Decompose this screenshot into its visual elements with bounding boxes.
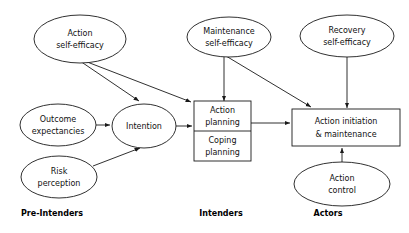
action-planning-label-line1: Action (210, 106, 235, 115)
outcome-expectancies-label-line2: expectancies (32, 127, 85, 136)
node-maintenance-self-efficacy[interactable]: Maintenance self-efficacy (187, 17, 271, 57)
coping-planning-label-line2: planning (205, 148, 240, 157)
node-planning-box[interactable]: Action planning Coping planning (194, 101, 251, 161)
action-self-efficacy-ellipse (34, 15, 126, 63)
recovery-self-efficacy-ellipse (300, 15, 394, 57)
node-risk-perception[interactable]: Risk perception (21, 156, 97, 198)
node-action-initiation[interactable]: Action initiation & maintenance (292, 109, 400, 146)
maintenance-self-efficacy-label-line2: self-efficacy (205, 39, 253, 48)
hapa-diagram: Action self-efficacy Maintenance self-ef… (0, 0, 409, 233)
stage-label-intenders: Intenders (199, 209, 243, 218)
action-planning-label-line2: planning (205, 118, 240, 127)
recovery-self-efficacy-label-line1: Recovery (328, 26, 365, 35)
risk-perception-label-line2: perception (38, 179, 81, 188)
outcome-expectancies-label-line1: Outcome (40, 115, 77, 124)
maintenance-self-efficacy-ellipse (187, 17, 271, 57)
stage-labels-group: Pre-Intenders Intenders Actors (21, 209, 343, 218)
diagram-canvas: Action self-efficacy Maintenance self-ef… (0, 0, 409, 233)
node-outcome-expectancies[interactable]: Outcome expectancies (20, 104, 96, 146)
action-control-ellipse (294, 162, 390, 206)
action-control-label-line2: control (328, 186, 356, 195)
edge-action-selfefficacy-to-intention (80, 61, 139, 101)
maintenance-self-efficacy-label-line1: Maintenance (203, 27, 255, 36)
intention-label: Intention (126, 122, 162, 131)
action-initiation-rect (292, 109, 400, 146)
risk-perception-label-line1: Risk (51, 167, 68, 176)
risk-perception-ellipse (21, 156, 97, 198)
edge-risk-perception-to-intention (93, 148, 140, 166)
coping-planning-label-line1: Coping (209, 136, 237, 145)
recovery-self-efficacy-label-line2: self-efficacy (323, 38, 371, 47)
action-self-efficacy-label-line2: self-efficacy (56, 41, 104, 50)
edge-maintenance-selfefficacy-to-action-initiation (226, 56, 311, 107)
node-intention[interactable]: Intention (112, 104, 176, 148)
stage-label-actors: Actors (314, 209, 343, 218)
node-action-self-efficacy[interactable]: Action self-efficacy (34, 15, 126, 63)
outcome-expectancies-ellipse (20, 104, 96, 146)
node-recovery-self-efficacy[interactable]: Recovery self-efficacy (300, 15, 394, 57)
action-initiation-label-line1: Action initiation (315, 117, 378, 126)
action-self-efficacy-label-line1: Action (67, 29, 92, 38)
node-action-control[interactable]: Action control (294, 162, 390, 206)
action-control-label-line1: Action (329, 174, 354, 183)
edge-action-selfefficacy-to-planning (82, 60, 191, 102)
stage-label-pre-intenders: Pre-Intenders (21, 209, 83, 218)
action-initiation-label-line2: & maintenance (315, 130, 376, 139)
